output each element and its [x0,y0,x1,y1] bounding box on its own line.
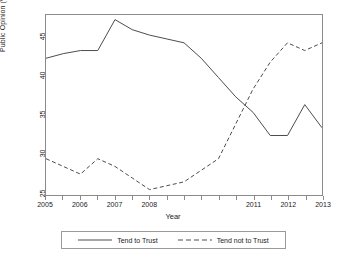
x-tick-mark [115,196,116,200]
legend-item-tend-not-to-trust: Tend not to Trust [178,236,269,244]
x-tick-mark [132,196,133,200]
legend-item-tend-to-trust: Tend to Trust [78,236,157,244]
x-tick-mark [254,196,255,200]
series-line-tend-not-to-trust [46,43,322,190]
x-tick-mark [80,196,81,200]
x-tick-mark [62,196,63,200]
x-tick-label: 2008 [141,201,157,208]
plot-area [45,14,323,196]
x-tick-mark [306,196,307,200]
x-tick-mark [288,196,289,200]
chart-legend: Tend to Trust Tend not to Trust [61,231,286,249]
x-tick-label: 2007 [107,201,123,208]
x-tick-label: 2011 [246,201,261,208]
x-tick-mark [201,196,202,200]
legend-swatch-dashed-icon [178,236,212,244]
x-tick-label: 2006 [72,201,88,208]
x-tick-mark [271,196,272,200]
x-axis-title: Year [0,212,346,221]
x-tick-mark [149,196,150,200]
chart-container: Public Opinion (%) 2530354045 2005200620… [0,0,346,257]
legend-swatch-solid-icon [78,236,112,244]
legend-label-tend-to-trust: Tend to Trust [117,237,157,244]
x-tick-mark [45,196,46,200]
x-tick-mark [184,196,185,200]
x-tick-mark [236,196,237,200]
x-tick-mark [97,196,98,200]
legend-label-tend-not-to-trust: Tend not to Trust [217,237,269,244]
series-line-tend-to-trust [46,20,322,136]
x-tick-label: 2013 [315,201,331,208]
x-tick-mark [219,196,220,200]
x-tick-mark [167,196,168,200]
x-tick-label: 2005 [37,201,53,208]
x-tick-mark [323,196,324,200]
x-tick-label: 2012 [280,201,296,208]
plot-lines [46,15,322,195]
